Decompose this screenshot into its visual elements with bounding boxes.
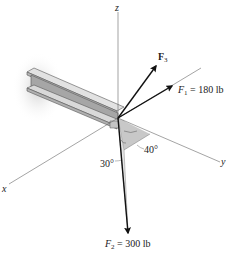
x-axis	[9, 118, 118, 184]
f3-arrow	[118, 66, 156, 118]
y-axis-label: y	[221, 157, 225, 167]
x-axis-label: x	[2, 184, 6, 194]
f1-arrow	[118, 86, 172, 118]
z-axis-label: z	[115, 3, 119, 13]
f1-label: F1 = 180 lb	[178, 85, 224, 97]
f3-label: F3	[158, 52, 168, 64]
angle-planes	[115, 118, 150, 232]
force-diagram	[0, 0, 230, 263]
angle-30-label: 30°	[100, 159, 114, 169]
f2-label: F2 = 300 lb	[105, 239, 151, 251]
angle-40-label: 40°	[144, 145, 158, 155]
